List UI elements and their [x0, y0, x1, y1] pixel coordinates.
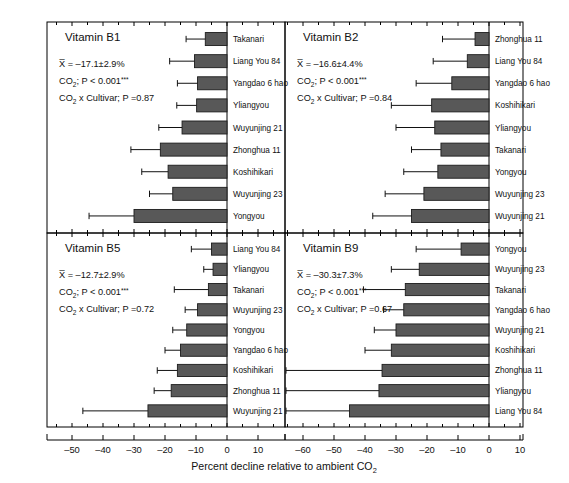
cultivar-label: Yliangyou: [233, 265, 269, 274]
cultivar-label: Yangdao 6 hao: [495, 79, 550, 88]
bar-group: [83, 405, 227, 417]
panel-title-b9: Vitamin B9: [303, 242, 358, 254]
bar: [419, 263, 489, 275]
bar: [181, 344, 228, 356]
cultivar-label: Zhonghua 11: [495, 366, 543, 375]
bar: [432, 99, 489, 112]
x-tick-label: –20: [157, 444, 173, 455]
interaction-annotation-b2: CO2 x Cultivar; P =0.84: [297, 93, 392, 105]
cultivar-label: Yongyou: [495, 168, 527, 177]
bar-group: [286, 405, 489, 417]
cultivar-label: Zhonghua 11: [233, 387, 281, 396]
interaction-annotation-b9: CO2 x Cultivar; P =0.67: [297, 304, 392, 316]
bar-group: [412, 143, 490, 156]
bar: [404, 304, 489, 316]
cultivar-label: Liang You 84: [233, 245, 281, 254]
interaction-annotation-b5: CO2 x Cultivar; P =0.72: [59, 304, 154, 316]
bar: [467, 55, 489, 68]
x-tick-label: 10: [253, 444, 263, 455]
bar: [198, 77, 227, 90]
bar-group: [191, 243, 227, 255]
bar-group: [150, 187, 228, 200]
cultivar-label: Liang You 84: [495, 407, 543, 416]
bar: [134, 209, 227, 222]
x-axis: –50–40–30–20–10010–60–50–40–30–20–10010: [47, 434, 525, 455]
x-tick-label: –50: [64, 444, 80, 455]
bar-group: [384, 304, 489, 316]
bar: [424, 187, 489, 200]
x-tick-label: 0: [224, 444, 229, 455]
x-tick-label: –20: [419, 444, 435, 455]
bar: [168, 165, 227, 178]
bar-group: [170, 55, 227, 68]
bar-group: [396, 121, 489, 134]
x-tick-label: –40: [95, 444, 111, 455]
cultivar-label: Yongyou: [233, 212, 265, 221]
bar: [382, 364, 489, 376]
interaction-annotation-b1: CO2 x Cultivar; P =0.87: [59, 93, 154, 105]
cultivar-label: Wuyunjing 21: [233, 124, 283, 133]
co2-annotation-b2: CO2; P < 0.001***: [297, 76, 367, 88]
cultivar-label: Wuyunjing 23: [233, 190, 283, 199]
cultivar-label: Wuyunjing 21: [495, 326, 545, 335]
bar-group: [391, 99, 489, 112]
bar: [441, 143, 489, 156]
bar: [379, 385, 489, 397]
cultivar-label: Zhonghua 11: [233, 146, 281, 155]
x-tick-label: –50: [326, 444, 342, 455]
cultivar-label: Liang You 84: [495, 57, 543, 66]
x-axis-title: Percent decline relative to ambient CO2: [191, 460, 377, 475]
bar-group: [416, 243, 489, 255]
cultivar-label: Yongyou: [495, 245, 527, 254]
bar-group: [374, 324, 489, 336]
bar-group: [286, 385, 489, 397]
cultivar-label: Wuyunjing 23: [233, 306, 283, 315]
bar-group: [204, 263, 227, 275]
bar-group: [154, 385, 227, 397]
bar-group: [385, 187, 489, 200]
x-tick-label: –40: [357, 444, 373, 455]
bar: [435, 121, 489, 134]
bar-group: [142, 165, 227, 178]
bar-group: [443, 33, 490, 46]
cultivar-label: Wuyunjing 21: [233, 407, 283, 416]
bar-group: [157, 364, 227, 376]
bar-group: [363, 283, 489, 295]
mean-annotation-b2: X̅ = –16.6±4.4%: [297, 59, 363, 69]
cultivar-label: Liang You 84: [233, 57, 281, 66]
cultivar-label: Takanari: [495, 286, 526, 295]
bar-group: [365, 344, 489, 356]
co2-annotation-b1: CO2; P < 0.001***: [59, 76, 129, 88]
co2-annotation-b5: CO2; P < 0.001***: [59, 287, 129, 299]
bar-group: [177, 99, 227, 112]
x-tick-label: –30: [388, 444, 404, 455]
cultivar-label: Takanari: [233, 35, 264, 44]
bar-group: [286, 364, 489, 376]
panel-b9: Vitamin B9X̅ = –30.3±7.3%CO2; P < 0.001*…: [285, 233, 550, 427]
bar-group: [186, 33, 227, 46]
x-tick-label: 10: [515, 444, 525, 455]
cultivar-label: Yliangyou: [495, 387, 531, 396]
cultivar-label: Wuyunjing 21: [495, 212, 545, 221]
bar: [205, 33, 227, 46]
panel-title-b5: Vitamin B5: [65, 242, 120, 254]
mean-annotation-b1: X̅ = –17.1±2.9%: [59, 59, 125, 69]
bar-group: [131, 143, 227, 156]
bar-group: [416, 77, 489, 90]
bar: [208, 283, 227, 295]
cultivar-label: Takanari: [233, 286, 264, 295]
x-tick-label: 0: [486, 444, 491, 455]
cultivar-label: Koshihikari: [233, 366, 273, 375]
bar: [213, 263, 227, 275]
bar-group: [165, 344, 227, 356]
bar: [187, 324, 227, 336]
cultivar-label: Koshihikari: [495, 346, 535, 355]
bar: [452, 77, 489, 90]
bar-group: [174, 283, 227, 295]
co2-annotation-b9: CO2; P < 0.001***: [297, 287, 367, 299]
mean-annotation-b5: X̅ = –12.7±2.9%: [59, 270, 125, 280]
figure-container: Vitamin B1X̅ = –17.1±2.9%CO2; P < 0.001*…: [0, 0, 569, 483]
bar: [194, 55, 227, 68]
x-tick-label: –60: [295, 444, 311, 455]
bar: [198, 304, 227, 316]
